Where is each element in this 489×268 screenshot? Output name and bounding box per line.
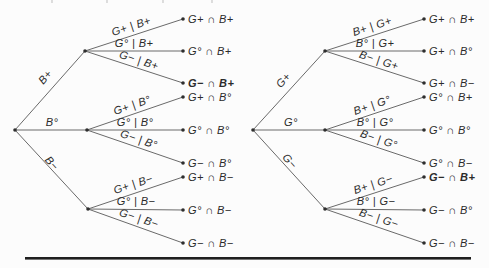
- right-leaf-label-4: G° ∩ B°: [429, 124, 471, 136]
- right-leaf-label-1: G+ ∩ B°: [429, 45, 473, 57]
- right-branch-label-7: B° | G−: [357, 195, 396, 207]
- left-branch-label-1: G° | B+: [115, 37, 154, 49]
- left-leaf-label-2-highlighted: G− ∩ B+: [188, 77, 234, 89]
- left-branch-label-7: G° | B−: [117, 195, 156, 207]
- left-tree-edges: [15, 19, 183, 243]
- right-leaf-label-3: G° ∩ B+: [429, 91, 473, 103]
- right-leaf-label-8: G− ∩ B−: [429, 237, 475, 249]
- right-root-branch-label-g-zero: G°: [284, 116, 298, 128]
- left-leaf-label-8: G− ∩ B−: [188, 237, 234, 249]
- right-tree-edges: [253, 19, 424, 243]
- right-leaf-label-2: G+ ∩ B−: [429, 77, 475, 89]
- probability-tree-figure: B+ B° B− G+ | B+ G° | B+ G− | B+ G+ | B°…: [0, 0, 489, 268]
- tree-diagram-canvas: [0, 0, 489, 268]
- left-leaf-label-0: G+ ∩ B+: [188, 13, 234, 25]
- top-crop-ticks: [52, 0, 212, 3]
- bottom-rule: [25, 257, 471, 260]
- left-leaf-label-4: G° ∩ B°: [188, 124, 230, 136]
- left-leaf-label-5: G− ∩ B°: [188, 157, 232, 169]
- left-leaf-label-1: G° ∩ B+: [188, 45, 232, 57]
- right-leaf-label-6-highlighted: G− ∩ B+: [429, 171, 475, 183]
- left-leaf-label-6: G+ ∩ B−: [188, 171, 234, 183]
- left-root-branch-label-b-zero: B°: [46, 116, 59, 128]
- right-leaf-label-5: G° ∩ B−: [429, 157, 473, 169]
- right-leaf-label-0: G+ ∩ B+: [429, 13, 475, 25]
- left-leaf-label-3: G+ ∩ B°: [188, 91, 232, 103]
- left-leaf-label-7: G° ∩ B−: [188, 204, 232, 216]
- right-leaf-label-7: G− ∩ B°: [429, 204, 473, 216]
